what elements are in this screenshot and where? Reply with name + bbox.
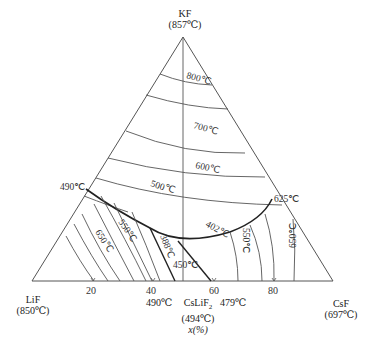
svg-text:450℃: 450℃ xyxy=(173,260,198,270)
axis-label: x(%) xyxy=(176,324,220,335)
lif-temp: (850℃) xyxy=(13,305,53,316)
kf-temp: (857℃) xyxy=(165,19,205,30)
compound-temp: (494℃) xyxy=(176,313,220,324)
svg-text:550℃: 550℃ xyxy=(241,228,251,253)
lif-label: LiF xyxy=(13,294,53,305)
vertex-lif: LiF (850℃) xyxy=(13,294,53,316)
svg-text:490℃: 490℃ xyxy=(60,182,85,192)
lif-isotherms xyxy=(66,196,160,281)
bottom-right-point: 479℃ xyxy=(220,297,246,308)
kf-label: KF xyxy=(165,8,205,19)
svg-text:60: 60 xyxy=(209,285,219,296)
svg-text:700℃: 700℃ xyxy=(192,120,219,136)
csf-isotherms xyxy=(230,214,295,281)
svg-text:625℃: 625℃ xyxy=(274,194,299,204)
svg-text:650℃: 650℃ xyxy=(93,228,115,255)
bottom-left-point: 490℃ xyxy=(146,297,172,308)
svg-text:20: 20 xyxy=(86,285,96,296)
compound-cslif2: CsLiF2 (494℃) x(%) xyxy=(176,297,220,335)
svg-text:600℃: 600℃ xyxy=(195,160,222,175)
vertex-csf: CsF (697℃) xyxy=(321,298,361,320)
svg-text:80: 80 xyxy=(268,285,278,296)
vertex-kf: KF (857℃) xyxy=(165,8,205,30)
svg-text:650℃: 650℃ xyxy=(288,223,298,248)
svg-text:40: 40 xyxy=(146,285,156,296)
csf-temp: (697℃) xyxy=(321,309,361,320)
ternary-diagram: 800℃ 700℃ 600℃ 500℃ 550℃ 650℃ 388℃ 402℃ … xyxy=(0,0,366,342)
compound-name: CsLiF2 xyxy=(176,297,220,313)
svg-text:500℃: 500℃ xyxy=(149,178,176,195)
csf-label: CsF xyxy=(321,298,361,309)
